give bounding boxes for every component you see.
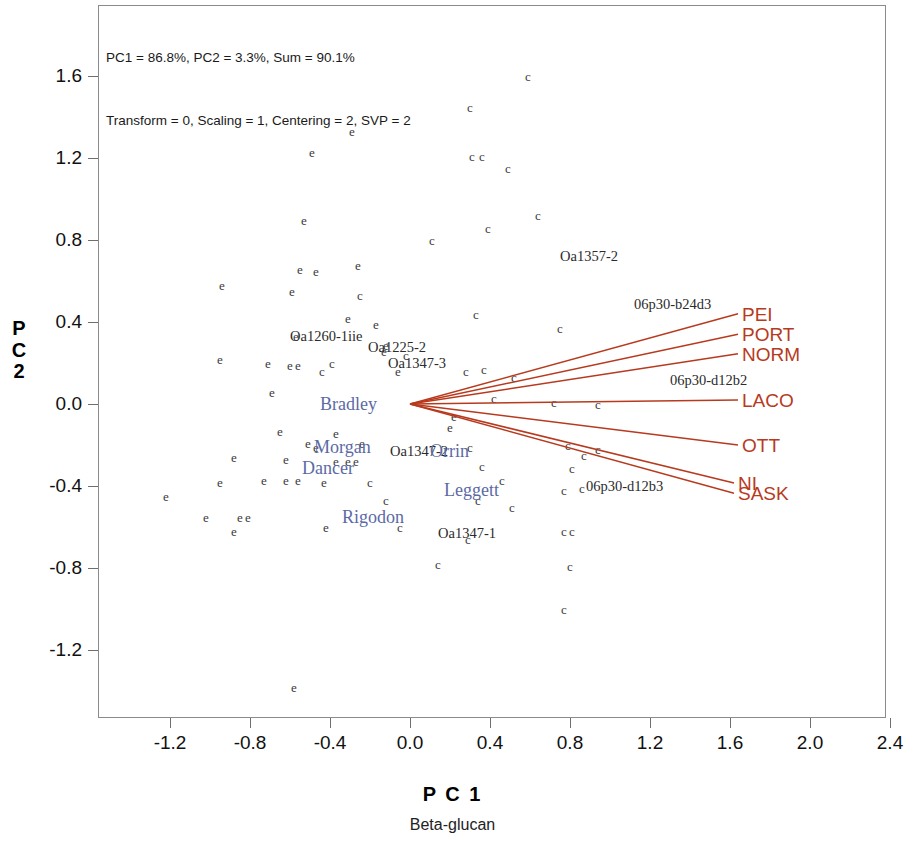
x-tick-label: 1.6 [700,732,760,754]
y-tick-label: 0.8 [22,229,82,251]
scatter-point: c [569,461,575,474]
y-tick-label: 0.0 [22,393,82,415]
y-tick-mark [88,568,98,569]
y-tick-label: -1.2 [22,639,82,661]
plot-subtitle: Beta-glucan [0,816,905,834]
scatter-point: e [217,352,223,365]
vector-label: NORM [742,344,800,363]
scatter-point: e [265,357,271,370]
x-tick-mark [410,718,411,728]
scatter-point: e [289,285,295,298]
x-tick-mark [730,718,731,728]
scatter-point: e [283,473,289,486]
scatter-point: e [287,359,293,372]
x-tick-mark [170,718,171,728]
vector-label: OTT [742,436,780,455]
scatter-point: e [203,510,209,523]
genotype-label: Leggett [444,481,499,499]
x-tick-mark [330,718,331,728]
scatter-point: c [429,234,435,247]
x-tick-label: -1.2 [140,732,200,754]
scatter-point: e [355,258,361,271]
x-tick-label: 0.4 [460,732,520,754]
scatter-point: c [467,100,473,113]
scatter-point: e [219,279,225,292]
scatter-point: e [373,318,379,331]
scatter-point: c [367,475,373,488]
genotype-label: Rigodon [342,508,404,526]
y-tick-mark [88,404,98,405]
variance-line-2: Transform = 0, Scaling = 1, Centering = … [106,111,526,132]
accession-label: Oa1225-2 [368,339,426,354]
vector-label: LACO [742,390,794,409]
biplot-figure: PC1 = 86.8%, PC2 = 3.3%, Sum = 90.1% Tra… [0,0,905,849]
x-tick-label: -0.8 [220,732,280,754]
scatter-point: c [435,557,441,570]
x-tick-label: 0.8 [540,732,600,754]
variance-line-1: PC1 = 86.8%, PC2 = 3.3%, Sum = 90.1% [106,48,526,69]
scatter-point: c [581,449,587,462]
scatter-point: c [485,221,491,234]
x-tick-label: 2.0 [780,732,840,754]
y-tick-label: 1.6 [22,65,82,87]
y-axis-title-char-3: 2 [6,361,32,383]
scatter-point: e [245,510,251,523]
scatter-point: c [329,357,335,370]
scatter-point: c [499,473,505,486]
accession-label: Oa1260-1iie [290,329,362,344]
scatter-point: c [561,484,567,497]
scatter-point: c [481,363,487,376]
y-tick-mark [88,486,98,487]
scatter-point: e [297,262,303,275]
y-axis-title: P C 2 [6,318,32,383]
scatter-point: c [525,70,531,83]
scatter-point: e [349,125,355,138]
x-tick-label: 0.0 [380,732,440,754]
scatter-point: c [505,162,511,175]
y-tick-mark [88,158,98,159]
scatter-point: e [283,453,289,466]
x-tick-label: 1.2 [620,732,680,754]
x-tick-mark [650,718,651,728]
accession-label: Oa1347-1 [438,526,496,541]
scatter-point: e [447,420,453,433]
y-tick-mark [88,240,98,241]
x-tick-mark [490,718,491,728]
y-tick-mark [88,322,98,323]
scatter-point: e [345,311,351,324]
scatter-point: c [561,525,567,538]
y-axis-title-char-2: C [6,340,32,362]
accession-label: 06p30-d12b3 [586,479,663,494]
y-tick-label: -0.4 [22,475,82,497]
x-tick-mark [890,718,891,728]
scatter-point: c [561,603,567,616]
scatter-point: c [557,322,563,335]
scatter-point: c [551,395,557,408]
y-tick-mark [88,76,98,77]
scatter-point: e [237,510,243,523]
scatter-point: c [469,149,475,162]
y-axis-title-char-1: P [6,318,32,340]
scatter-point: c [473,307,479,320]
scatter-point: e [309,145,315,158]
vector-label: SASK [738,484,789,503]
x-axis-title: P C 1 [0,783,905,806]
scatter-point: e [313,264,319,277]
scatter-point: c [509,500,515,513]
scatter-point: e [305,436,311,449]
vector-label: PORT [742,325,794,344]
scatter-point: c [595,443,601,456]
scatter-point: e [291,680,297,693]
scatter-point: e [163,490,169,503]
scatter-point: c [319,365,325,378]
vector-label: PEI [742,304,773,323]
scatter-point: c [463,365,469,378]
scatter-point: c [383,494,389,507]
x-tick-mark [250,718,251,728]
genotype-label: Morgan [314,438,371,456]
scatter-point: e [231,451,237,464]
scatter-point: c [491,391,497,404]
scatter-point: e [323,521,329,534]
x-tick-label: 2.4 [860,732,905,754]
accession-label: Oa1357-2 [560,249,618,264]
